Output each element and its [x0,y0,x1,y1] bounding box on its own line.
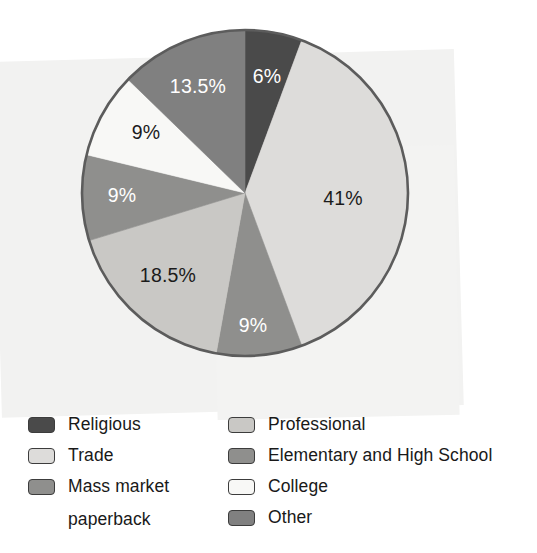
chart-legend: Religious Trade Mass market paperback Pr… [28,409,528,536]
legend-label-elementary-and-high-school: Elementary and High School [268,445,492,466]
legend-label-religious: Religious [68,414,141,435]
legend-swatch-trade [28,448,55,464]
legend-label-mass-market-paperback-line2: paperback [68,509,151,530]
pie-data-label: 13.5% [170,75,226,97]
legend-item-elementary-and-high-school[interactable]: Elementary and High School [228,440,528,471]
pie-data-label: 41% [323,187,363,209]
legend-item-trade[interactable]: Trade [28,440,228,471]
legend-swatch-mass-market-paperback [28,479,55,495]
legend-swatch-other [228,510,255,526]
pie-chart-figure: 6%41%9%18.5%9%9%13.5% Religious Trade Ma… [0,0,537,553]
legend-item-mass-market-paperback[interactable]: Mass market [28,471,228,502]
legend-item-religious[interactable]: Religious [28,409,228,440]
legend-item-college[interactable]: College [228,471,528,502]
legend-label-other: Other [268,507,312,528]
pie-chart-svg: 6%41%9%18.5%9%9%13.5% [0,0,537,420]
legend-column-left: Religious Trade Mass market paperback [28,409,228,536]
pie-data-label: 9% [108,184,137,206]
pie-data-label: 6% [253,65,282,87]
legend-swatch-elementary-and-high-school [228,448,255,464]
legend-label-college: College [268,476,328,497]
legend-label-mass-market-paperback-line1: Mass market [68,476,169,497]
legend-label-professional: Professional [268,414,366,435]
pie-chart-plot-area: 6%41%9%18.5%9%9%13.5% [0,0,537,420]
legend-swatch-college [228,479,255,495]
legend-column-right: Professional Elementary and High School … [228,409,528,536]
pie-data-label: 9% [132,121,161,143]
legend-swatch-spacer [28,511,55,527]
legend-swatch-religious [28,417,55,433]
legend-item-mass-market-paperback-line2: paperback [28,502,228,536]
legend-item-professional[interactable]: Professional [228,409,528,440]
legend-label-trade: Trade [68,445,114,466]
legend-swatch-professional [228,417,255,433]
legend-item-other[interactable]: Other [228,502,528,533]
pie-data-label: 18.5% [140,264,196,286]
pie-data-label: 9% [239,314,268,336]
